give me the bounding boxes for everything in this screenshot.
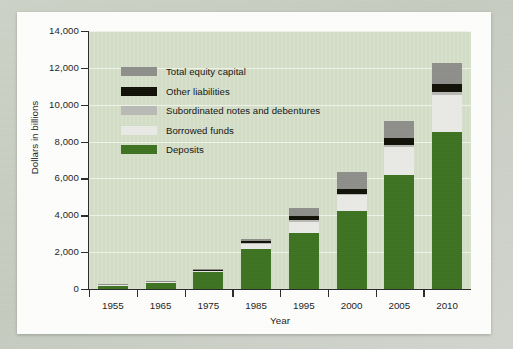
x-axis-tick xyxy=(232,290,233,297)
bar-segment[interactable] xyxy=(432,95,462,133)
chart-legend: Total equity capitalOther liabilitiesSub… xyxy=(121,62,381,160)
bar-segment[interactable] xyxy=(289,221,319,232)
x-axis-tick-label: 1985 xyxy=(232,300,280,311)
legend-swatch-icon xyxy=(121,87,157,96)
x-axis-tick-label: 1995 xyxy=(280,300,328,311)
y-axis-tick xyxy=(81,105,89,106)
y-axis-tick-label: 12,000 xyxy=(21,62,79,73)
bar-segment[interactable] xyxy=(384,121,414,138)
legend-item: Total equity capital xyxy=(121,62,381,82)
bar-segment[interactable] xyxy=(98,284,128,285)
x-axis-tick-label: 1955 xyxy=(89,300,137,311)
bar-segment[interactable] xyxy=(337,172,367,189)
bar-segment[interactable] xyxy=(289,220,319,221)
bar-segment[interactable] xyxy=(384,145,414,147)
bar-segment[interactable] xyxy=(193,271,223,289)
y-axis-tick xyxy=(81,68,89,69)
bar-segment[interactable] xyxy=(432,132,462,289)
x-axis-tick-label: 2000 xyxy=(328,300,376,311)
bar-segment[interactable] xyxy=(384,147,414,175)
legend-label: Borrowed funds xyxy=(166,125,234,136)
bar-segment[interactable] xyxy=(241,243,271,249)
legend-item: Subordinated notes and debentures xyxy=(121,101,381,121)
legend-swatch-icon xyxy=(121,126,157,135)
y-axis-tick-label: 14,000 xyxy=(21,25,79,36)
y-axis-tick-label: 0 xyxy=(21,283,79,294)
x-axis-tick xyxy=(328,290,329,297)
y-axis-tick xyxy=(81,215,89,216)
bar-segment[interactable] xyxy=(337,195,367,211)
x-axis-tick-label: 2005 xyxy=(375,300,423,311)
bar-segment[interactable] xyxy=(193,269,223,270)
bar-segment[interactable] xyxy=(384,138,414,145)
legend-swatch-icon xyxy=(121,67,157,76)
figure-root: 02,0004,0006,0008,00010,00012,00014,000 … xyxy=(0,0,513,349)
y-axis-tick xyxy=(81,142,89,143)
x-axis-tick-label: 1965 xyxy=(137,300,185,311)
y-axis-title: Dollars in billions xyxy=(29,73,40,203)
legend-swatch-icon xyxy=(121,145,157,154)
bar-segment[interactable] xyxy=(146,281,176,282)
bar-segment[interactable] xyxy=(193,270,223,271)
bar-segment[interactable] xyxy=(241,241,271,243)
bar-segment[interactable] xyxy=(384,175,414,289)
x-axis-tick xyxy=(89,290,90,297)
bar-segment[interactable] xyxy=(289,208,319,216)
chart-page-card: 02,0004,0006,0008,00010,00012,00014,000 … xyxy=(17,12,491,334)
x-axis-tick xyxy=(185,290,186,297)
bar-segment[interactable] xyxy=(289,233,319,289)
bar-segment[interactable] xyxy=(241,243,271,244)
bar-segment[interactable] xyxy=(337,211,367,289)
stacked-bar-chart: 02,0004,0006,0008,00010,00012,00014,000 … xyxy=(17,12,491,334)
x-axis-tick xyxy=(137,290,138,297)
bar-stack[interactable] xyxy=(432,31,462,289)
legend-label: Total equity capital xyxy=(166,66,246,77)
legend-item: Deposits xyxy=(121,140,381,160)
legend-label: Other liabilities xyxy=(166,86,230,97)
bar-segment[interactable] xyxy=(432,63,462,84)
bar-segment[interactable] xyxy=(241,249,271,289)
bar-stack[interactable] xyxy=(384,31,414,289)
x-axis-tick-label: 1975 xyxy=(184,300,232,311)
x-axis-title: Year xyxy=(89,315,471,326)
y-axis-tick xyxy=(81,31,89,32)
bar-segment[interactable] xyxy=(337,189,367,194)
legend-item: Borrowed funds xyxy=(121,121,381,141)
y-axis-tick-labels: 02,0004,0006,0008,00010,00012,00014,000 xyxy=(17,12,79,334)
bar-segment[interactable] xyxy=(146,282,176,289)
legend-item: Other liabilities xyxy=(121,82,381,102)
bar-segment[interactable] xyxy=(289,216,319,220)
x-axis-tick xyxy=(376,290,377,297)
y-axis-tick xyxy=(81,289,89,290)
bar-segment[interactable] xyxy=(241,239,271,241)
y-axis-tick xyxy=(81,252,89,253)
legend-label: Deposits xyxy=(166,144,204,155)
x-axis-tick-label: 2010 xyxy=(423,300,471,311)
legend-label: Subordinated notes and debentures xyxy=(166,105,320,116)
legend-swatch-icon xyxy=(121,106,157,115)
x-axis-tick xyxy=(423,290,424,297)
x-axis-tick xyxy=(280,290,281,297)
y-axis-tick-label: 4,000 xyxy=(21,209,79,220)
y-axis-tick-label: 2,000 xyxy=(21,246,79,257)
bar-segment[interactable] xyxy=(337,194,367,195)
bar-segment[interactable] xyxy=(432,84,462,91)
bar-segment[interactable] xyxy=(432,92,462,95)
y-axis-tick xyxy=(81,178,89,179)
